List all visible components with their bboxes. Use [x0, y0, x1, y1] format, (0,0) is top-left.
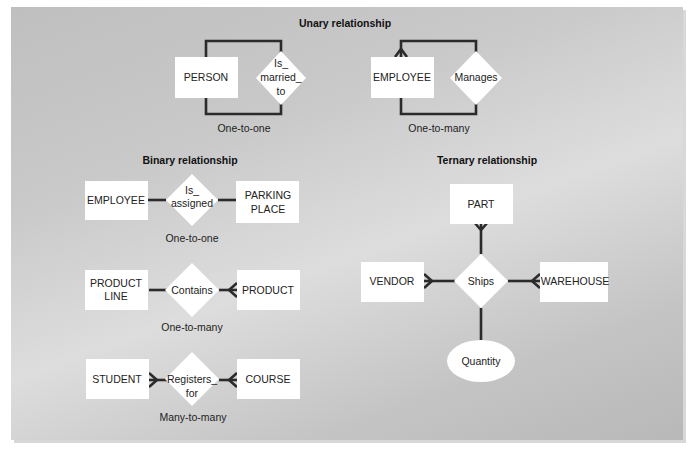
- relationship-label: Registers_: [167, 373, 217, 385]
- entity-label: WAREHOUSE: [541, 275, 609, 287]
- entity-label: PRODUCT: [242, 284, 295, 296]
- binary-one-to-one: EMPLOYEE Is_ assigned PARKING PLACE One-…: [85, 174, 299, 244]
- relationship-label: to: [277, 85, 286, 97]
- relationship-label: Is_: [274, 57, 288, 69]
- entity-label: VENDOR: [370, 275, 415, 287]
- connector-line: [401, 41, 476, 57]
- relationship-label: married_: [260, 71, 302, 83]
- ternary-relationship: PART VENDOR WAREHOUSE Ships Quantity: [361, 184, 609, 382]
- cardinality-label: One-to-one: [165, 232, 218, 244]
- relationship-label: assigned: [171, 197, 213, 209]
- entity-label: PERSON: [184, 71, 228, 83]
- entity-label: PRODUCT: [90, 277, 143, 289]
- unary-title: Unary relationship: [299, 17, 391, 29]
- attribute-label: Quantity: [461, 355, 501, 367]
- relationship-label: Contains: [171, 284, 212, 296]
- entity-label: STUDENT: [92, 373, 142, 385]
- entity-label: EMPLOYEE: [373, 71, 431, 83]
- ternary-title: Ternary relationship: [437, 154, 537, 166]
- cardinality-label: One-to-many: [161, 321, 223, 333]
- entity-label: PART: [467, 198, 495, 210]
- relationship-label: Is_: [185, 184, 199, 196]
- binary-title: Binary relationship: [142, 154, 237, 166]
- er-diagram: Unary relationship PERSON Is_ married_ t…: [0, 0, 693, 452]
- connector-line: [401, 97, 476, 114]
- entity-parking-place: [236, 181, 299, 223]
- binary-many-to-many: STUDENT Registers_ for COURSE Many-to-ma…: [86, 352, 300, 423]
- entity-label: PARKING: [245, 189, 291, 201]
- connector-line: [206, 97, 281, 114]
- cardinality-label: One-to-one: [217, 122, 270, 134]
- unary-one-to-one: PERSON Is_ married_ to One-to-one: [175, 41, 306, 134]
- relationship-label: Manages: [454, 71, 497, 83]
- relationship-label: for: [186, 387, 199, 399]
- relationship-label: Ships: [468, 275, 494, 287]
- entity-label: EMPLOYEE: [87, 194, 145, 206]
- unary-one-to-many: EMPLOYEE Manages One-to-many: [371, 41, 502, 134]
- entity-label: LINE: [104, 290, 127, 302]
- binary-one-to-many: PRODUCT LINE Contains PRODUCT One-to-man…: [85, 263, 300, 333]
- cardinality-label: One-to-many: [408, 122, 470, 134]
- cardinality-label: Many-to-many: [159, 411, 227, 423]
- entity-label: COURSE: [246, 373, 291, 385]
- entity-label: PLACE: [251, 203, 285, 215]
